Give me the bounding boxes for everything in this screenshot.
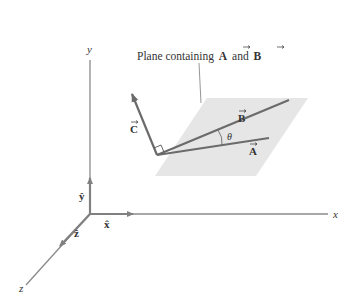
cross-product-diagram: y x z ŷ x̂ ẑ Plane containing A and B B … — [0, 0, 350, 300]
caption-vector-arrows — [243, 46, 284, 49]
z-axis-label: z — [18, 282, 24, 294]
caption-leader-line — [199, 63, 201, 103]
plane-caption: Plane containing A and B — [137, 50, 262, 63]
angle-theta-label: θ — [227, 131, 232, 142]
z-hat-label: ẑ — [74, 227, 79, 239]
x-hat-label: x̂ — [104, 218, 110, 230]
y-hat-label: ŷ — [79, 190, 85, 202]
vector-b-label: B — [238, 112, 246, 124]
x-axis-label: x — [332, 208, 338, 220]
vector-c-label: C — [130, 123, 138, 135]
unit-vectors — [60, 178, 133, 246]
caption-vector-a: A — [219, 50, 228, 62]
vector-a-label: A — [249, 145, 257, 157]
y-axis-label: y — [86, 43, 92, 55]
caption-vector-b: B — [254, 50, 262, 62]
